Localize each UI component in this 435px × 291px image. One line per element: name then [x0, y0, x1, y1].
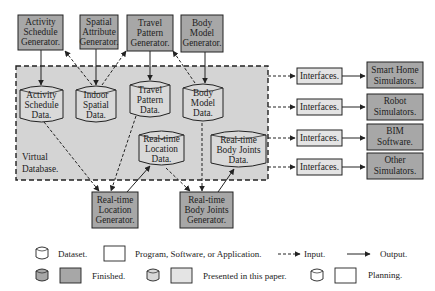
travel-pattern-data-line2: Pattern — [137, 95, 164, 105]
real-time-location-generator-line2: Location — [98, 205, 131, 215]
bim-software-line2: Software. — [377, 137, 413, 147]
interfaces-box-1: Interfaces. — [300, 71, 339, 81]
travel-pattern-data: Travel Pattern Data. — [130, 81, 170, 117]
legend-finished-label: Finished. — [92, 271, 125, 281]
body-model-data-line1: Body — [193, 88, 213, 98]
body-model-data-line3: Data. — [193, 108, 213, 118]
body-model-generator: Body Model Generator. — [181, 15, 223, 52]
travel-pattern-generator-line1: Travel — [138, 18, 162, 28]
body-model-data-line2: Model — [191, 98, 216, 108]
activity-schedule-generator: Activity Schedule Generator. — [18, 15, 63, 50]
legend-dataset-label: Dataset. — [58, 249, 87, 259]
real-time-body-joints-generator: Real-time Body Joints Generator. — [180, 192, 233, 228]
real-time-body-joints-generator-line1: Real-time — [188, 195, 225, 205]
travel-pattern-data-line1: Travel — [138, 85, 162, 95]
real-time-body-joints-generator-line2: Body Joints — [184, 205, 229, 215]
real-time-location-generator-line1: Real-time — [97, 195, 134, 205]
indoor-spatial-data-line1: Indoor — [84, 90, 110, 100]
real-time-body-joints-data-line3: Data. — [229, 155, 249, 165]
interface-row-other: Interfaces. Other Simulators. — [297, 153, 423, 179]
legend-finished-program-icon — [60, 268, 81, 283]
smart-home-simulators-line2: Simulators. — [374, 76, 417, 86]
real-time-body-joints-data-line1: Real-time — [220, 135, 257, 145]
spatial-attribute-generator-line3: Generator. — [80, 37, 119, 47]
interface-row-smart-home: Interfaces. Smart Home Simulators. — [297, 62, 423, 88]
indoor-spatial-data-line2: Spatial — [83, 100, 109, 110]
legend-planning-label: Planning. — [368, 270, 402, 280]
body-model-generator-line3: Generator. — [183, 38, 222, 48]
interface-row-robot: Interfaces. Robot Simulators. — [297, 94, 423, 120]
real-time-location-generator: Real-time Location Generator. — [92, 192, 138, 228]
legend-planning-dataset-icon — [311, 269, 323, 281]
activity-schedule-generator-line3: Generator. — [21, 37, 60, 47]
legend-presented-program-icon — [171, 268, 192, 283]
legend-program-icon — [104, 246, 125, 261]
body-model-data: Body Model Data. — [183, 84, 223, 121]
interfaces-box-2: Interfaces. — [300, 102, 339, 112]
body-model-generator-line2: Model — [190, 28, 215, 38]
real-time-body-joints-data-line2: Body Joints — [216, 145, 261, 155]
real-time-location-data-line2: Location — [145, 144, 178, 154]
interface-row-bim: Interfaces. BIM Software. — [297, 124, 423, 150]
legend-finished-dataset-icon — [36, 269, 48, 281]
legend-output-label: Output. — [380, 249, 407, 259]
body-model-generator-line1: Body — [192, 18, 212, 28]
spatial-attribute-generator: Spatial Attribute Generator. — [80, 15, 119, 49]
activity-schedule-generator-line2: Schedule — [23, 27, 57, 37]
indoor-spatial-data-line3: Data. — [86, 110, 106, 120]
virtual-database-label-line2: Database. — [22, 164, 58, 174]
robot-simulators-line2: Simulators. — [374, 107, 417, 117]
spatial-attribute-generator-line2: Attribute — [82, 27, 116, 37]
bim-software-line1: BIM — [386, 126, 404, 136]
robot-simulators-line1: Robot — [384, 96, 407, 106]
activity-schedule-data-line3: Data. — [32, 110, 52, 120]
activity-schedule-data: Activity Schedule Data. — [20, 86, 63, 122]
travel-pattern-generator-line3: Generator. — [131, 38, 170, 48]
real-time-location-data-line3: Data. — [152, 154, 172, 164]
legend-program-label: Program, Software, or Application. — [135, 249, 261, 259]
real-time-location-data: Real-time Location Data. — [139, 131, 184, 165]
activity-schedule-data-line2: Schedule — [24, 100, 58, 110]
system-architecture-diagram: Virtual Database. Activity Schedule Gene… — [0, 0, 435, 291]
legend-input-label: Input. — [304, 249, 325, 259]
interfaces-box-4: Interfaces. — [300, 162, 339, 172]
travel-pattern-data-line3: Data. — [140, 105, 160, 115]
other-simulators-line1: Other — [384, 155, 406, 165]
virtual-database-label-line1: Virtual — [22, 152, 48, 162]
legend: Dataset. Program, Software, or Applicati… — [36, 246, 407, 283]
legend-presented-dataset-icon — [147, 269, 159, 281]
real-time-location-data-line1: Real-time — [143, 134, 180, 144]
activity-schedule-generator-line1: Activity — [25, 17, 56, 27]
real-time-body-joints-generator-line3: Generator. — [187, 215, 226, 225]
interfaces-box-3: Interfaces. — [300, 133, 339, 143]
other-simulators-line2: Simulators. — [374, 166, 417, 176]
legend-planning-program-icon — [335, 268, 356, 283]
real-time-location-generator-line3: Generator. — [96, 215, 135, 225]
activity-schedule-data-line1: Activity — [26, 90, 57, 100]
real-time-body-joints-data: Real-time Body Joints Data. — [211, 131, 266, 167]
legend-dataset-icon — [36, 247, 48, 259]
spatial-attribute-generator-line1: Spatial — [86, 17, 112, 27]
travel-pattern-generator-line2: Pattern — [137, 28, 164, 38]
indoor-spatial-data: Indoor Spatial Data. — [76, 86, 116, 122]
smart-home-simulators-line1: Smart Home — [371, 65, 418, 75]
travel-pattern-generator: Travel Pattern Generator. — [127, 15, 173, 51]
legend-presented-label: Presented in this paper. — [203, 271, 286, 281]
